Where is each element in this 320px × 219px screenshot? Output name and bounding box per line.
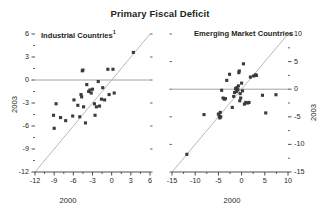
figure-container: Primary Fiscal Deficit Industrial Countr… [0,0,320,219]
ytick-label: 5 [294,57,316,66]
ytick-label: -5 [294,112,316,121]
xaxis-title-right: 2000 [152,196,312,205]
ytick-label: 3 [7,52,29,61]
ytick-label: 6 [7,29,29,38]
ytick-label: -6 [7,121,29,130]
ytick-label: 10 [294,29,316,38]
ytick-label: 0 [7,75,29,84]
panel-industrial-countries: Industrial Countries1 2000 2003 -12-9-6-… [0,0,160,219]
xaxis-title-left: 2000 [0,196,148,205]
xtick-label: 10 [274,176,302,185]
ytick-label: -15 [294,167,316,176]
ytick-label: -12 [7,167,29,176]
ytick-label: 0 [294,84,316,93]
ytick-label: -9 [7,144,29,153]
panel-emerging-market-countries: Emerging Market Countries 2000 2003 -15-… [160,0,320,219]
ytick-label: -3 [7,98,29,107]
ytick-label: -10 [294,139,316,148]
